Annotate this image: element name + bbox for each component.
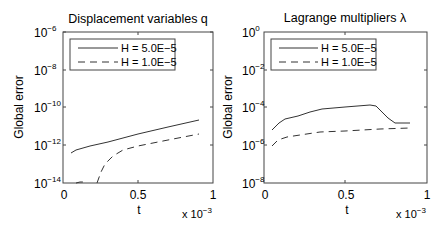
- x-tick-label: 1: [210, 188, 217, 202]
- svg-text:10−6: 10−6: [242, 137, 265, 153]
- series-solid: [272, 105, 410, 130]
- x-axis-label: t: [345, 203, 349, 217]
- plot-displacement: Displacement variables q 10−6 10−8 10−10…: [12, 12, 217, 220]
- series-solid: [71, 120, 199, 153]
- x-tick-label: 0.5: [130, 188, 147, 202]
- legend-label-dashed: H = 1.0E−5: [121, 56, 177, 68]
- svg-text:10−10: 10−10: [34, 99, 61, 115]
- x-multiplier: x 10−3: [396, 206, 426, 220]
- svg-text:100: 100: [242, 24, 260, 40]
- svg-text:10−8: 10−8: [34, 62, 57, 78]
- legend-label-dashed: H = 1.0E−5: [321, 56, 377, 68]
- y-axis-label: Global error: [221, 75, 235, 138]
- x-tick-label: 0.5: [338, 188, 355, 202]
- x-multiplier: x 10−3: [182, 206, 212, 220]
- figure: Displacement variables q 10−6 10−8 10−10…: [0, 0, 445, 231]
- x-tick-label: 0: [262, 188, 269, 202]
- series-dashed: [272, 128, 410, 146]
- svg-text:10−6: 10−6: [34, 24, 57, 40]
- x-axis-label: t: [137, 203, 141, 217]
- svg-text:10−4: 10−4: [242, 99, 265, 115]
- legend: H = 5.0E−5 H = 1.0E−5: [70, 39, 177, 70]
- y-tick-labels: 100 10−2 10−4 10−6 10−8: [242, 24, 265, 191]
- svg-text:10−12: 10−12: [34, 137, 61, 153]
- plot-lagrange: Lagrange multipliers λ 100 10−2 10−4 10−…: [221, 11, 431, 220]
- y-axis-label: Global error: [12, 75, 26, 138]
- svg-text:10−2: 10−2: [242, 62, 265, 78]
- svg-text:10−14: 10−14: [34, 175, 61, 191]
- plot-title: Displacement variables q: [68, 12, 208, 26]
- x-tick-label: 0: [61, 188, 68, 202]
- legend-label-solid: H = 5.0E−5: [321, 42, 377, 54]
- x-tick-label: 1: [424, 188, 431, 202]
- plot-title: Lagrange multipliers λ: [284, 11, 407, 25]
- legend-label-solid: H = 5.0E−5: [121, 42, 177, 54]
- legend: H = 5.0E−5 H = 1.0E−5: [271, 39, 377, 70]
- y-tick-labels: 10−6 10−8 10−10 10−12 10−14: [34, 24, 61, 191]
